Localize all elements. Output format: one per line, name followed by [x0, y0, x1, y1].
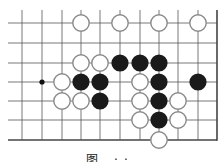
white-stone	[190, 15, 206, 31]
black-stone	[150, 73, 167, 90]
star-point	[39, 79, 44, 84]
white-stone	[73, 15, 89, 31]
black-stone	[72, 73, 89, 90]
white-stone	[151, 15, 167, 31]
black-stone	[150, 111, 167, 128]
black-stone	[91, 73, 108, 90]
white-stone	[132, 93, 148, 109]
white-stone	[132, 112, 148, 128]
white-stone	[170, 112, 186, 128]
white-stone	[92, 55, 108, 71]
go-board	[0, 0, 220, 162]
white-stone	[73, 55, 89, 71]
white-stone	[132, 74, 148, 90]
figure-caption: 图 ··	[0, 154, 220, 162]
star-points	[39, 79, 44, 84]
black-stone	[189, 73, 206, 90]
white-stone	[170, 93, 186, 109]
black-stone	[131, 54, 148, 71]
black-stone	[150, 54, 167, 71]
black-stone	[111, 54, 128, 71]
white-stone	[151, 132, 167, 148]
black-stone	[150, 92, 167, 109]
white-stone	[54, 74, 70, 90]
white-stone	[54, 93, 70, 109]
white-stone	[112, 15, 128, 31]
black-stone	[91, 92, 108, 109]
white-stone	[73, 93, 89, 109]
stones	[54, 15, 207, 148]
